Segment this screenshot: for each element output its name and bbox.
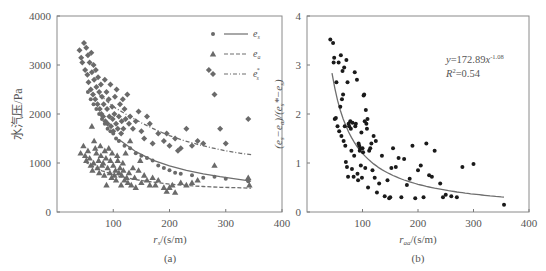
x-tick-label: 100 — [105, 217, 122, 229]
dot-marker — [413, 196, 417, 200]
dot-marker — [179, 172, 183, 176]
diamond-marker — [130, 126, 136, 132]
triangle-marker — [91, 138, 97, 144]
panel-a-x-axis-label: rs/(s/m) — [153, 233, 187, 247]
diamond-marker — [189, 143, 195, 149]
dot-marker — [356, 178, 360, 182]
dot-marker — [345, 165, 349, 169]
diamond-marker — [138, 128, 144, 134]
diamond-marker — [104, 106, 110, 112]
dot-marker — [168, 168, 172, 172]
diamond-marker — [172, 136, 178, 142]
dot-marker — [354, 122, 358, 126]
dot-marker — [346, 175, 350, 179]
y-tick-label: 2000 — [29, 108, 52, 120]
triangle-marker — [104, 165, 110, 171]
triangle-marker — [149, 175, 155, 181]
dot-marker — [211, 32, 215, 36]
dot-marker — [349, 149, 353, 153]
panel-b-chart: 01234 100200300400 (es−ea)/(es*−es) y=17… — [272, 10, 538, 265]
diamond-marker — [147, 121, 153, 127]
dot-marker — [332, 61, 336, 65]
triangle-marker — [183, 182, 189, 188]
diamond-marker — [112, 94, 118, 100]
dot-marker — [355, 78, 359, 82]
panel-b-r-squared: R2=0.54 — [445, 67, 481, 79]
diamond-marker — [109, 104, 115, 110]
y-tick-label: 4000 — [29, 10, 52, 22]
dot-marker — [444, 193, 448, 197]
dot-marker — [342, 139, 346, 143]
diamond-marker — [126, 121, 132, 127]
dot-marker — [341, 69, 345, 73]
diamond-marker — [104, 89, 110, 95]
diamond-marker — [200, 140, 206, 146]
diamond-marker — [223, 140, 229, 146]
dot-marker — [399, 195, 403, 199]
dot-marker — [438, 182, 442, 186]
triangle-marker — [103, 182, 109, 188]
triangle-marker — [95, 157, 101, 163]
diamond-marker — [206, 67, 212, 73]
diamond-marker — [124, 91, 130, 97]
dot-marker — [364, 122, 368, 126]
diamond-marker — [217, 126, 223, 132]
triangle-marker — [130, 165, 136, 171]
diamond-marker — [122, 106, 128, 112]
triangle-marker — [178, 179, 184, 185]
panel-b-y-ticks: 01234 — [296, 10, 311, 218]
diamond-marker — [150, 140, 156, 146]
dot-marker — [139, 154, 143, 158]
dot-marker — [361, 150, 365, 154]
dot-marker — [339, 53, 343, 57]
triangle-marker — [93, 150, 99, 156]
diamond-marker — [107, 82, 113, 88]
dot-marker — [366, 186, 370, 190]
triangle-marker — [127, 138, 133, 144]
x-tick-label: 100 — [354, 217, 371, 229]
dot-marker — [422, 195, 426, 199]
legend-label: e*s — [253, 67, 259, 81]
triangle-marker — [135, 167, 141, 173]
dot-marker — [332, 56, 336, 60]
dot-marker — [359, 163, 363, 167]
dot-marker — [89, 97, 93, 101]
triangle-marker — [211, 162, 217, 168]
diamond-marker — [144, 113, 150, 119]
triangle-marker — [97, 143, 103, 149]
y-tick-label: 2 — [296, 108, 302, 120]
diamond-marker — [114, 87, 120, 93]
panel-a-label: (a) — [164, 252, 177, 265]
dot-marker — [370, 168, 374, 172]
panel-b-fit-equation: y=172.89x-1.08 — [445, 53, 504, 65]
panel-a-y-ticks: 01000200030004000 — [29, 10, 60, 218]
dot-marker — [352, 175, 356, 179]
diamond-marker — [183, 126, 189, 132]
dot-marker — [201, 176, 205, 180]
diamond-marker — [96, 89, 102, 95]
triangle-marker — [194, 177, 200, 183]
dot-marker — [363, 166, 367, 170]
dot-marker — [372, 134, 376, 138]
diamond-marker — [101, 101, 107, 107]
triangle-marker — [245, 175, 251, 181]
dot-marker — [408, 177, 412, 181]
dot-marker — [375, 190, 379, 194]
triangle-marker — [131, 175, 137, 181]
dot-marker — [460, 165, 464, 169]
triangle-marker — [161, 184, 167, 190]
x-tick-label: 300 — [465, 217, 482, 229]
dot-marker — [433, 149, 437, 153]
dot-marker — [383, 194, 387, 198]
dot-marker — [117, 139, 121, 143]
triangle-marker — [137, 157, 143, 163]
triangle-marker — [89, 123, 95, 129]
diamond-marker — [78, 55, 84, 61]
triangle-marker — [152, 182, 158, 188]
dot-marker — [360, 176, 364, 180]
dot-marker — [361, 146, 365, 150]
diamond-marker — [86, 79, 92, 85]
panel-b-x-axis-label: raa/(s/m) — [399, 233, 437, 247]
dot-marker — [334, 116, 338, 120]
dot-marker — [385, 178, 389, 182]
